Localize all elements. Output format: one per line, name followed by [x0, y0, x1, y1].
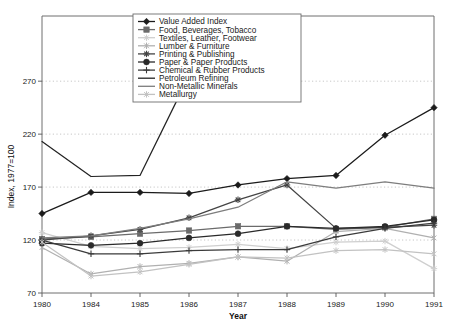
- data-point-marker: [431, 104, 437, 110]
- data-point-marker: [284, 175, 290, 181]
- x-tick-label: 1986: [180, 300, 198, 309]
- data-point-marker: [88, 189, 94, 195]
- x-tick-label: 1980: [33, 300, 51, 309]
- x-tick-label: 1990: [376, 300, 394, 309]
- x-tick-label: 1985: [131, 300, 149, 309]
- data-point-marker: [235, 231, 241, 237]
- data-point-marker: [186, 235, 192, 241]
- x-tick-label: 1988: [278, 300, 296, 309]
- y-tick-label: 170: [23, 183, 37, 192]
- axis-ticks: [38, 81, 434, 297]
- chart-legend[interactable]: Value Added IndexFood, Beverages, Tobacc…: [133, 14, 301, 102]
- x-axis-title: Year: [229, 311, 248, 321]
- data-point-marker: [186, 228, 191, 233]
- x-tick-label: 1987: [229, 300, 247, 309]
- data-point-marker: [144, 27, 149, 32]
- chart-page: 7012017022027019801984198519861987198819…: [0, 0, 449, 326]
- x-tick-label: 1991: [425, 300, 443, 309]
- data-point-marker: [235, 224, 240, 229]
- data-point-marker: [137, 189, 143, 195]
- axis-labels: 7012017022027019801984198519861987198819…: [6, 77, 443, 321]
- x-tick-label: 1984: [82, 300, 100, 309]
- y-tick-label: 270: [23, 77, 37, 86]
- x-tick-label: 1989: [327, 300, 345, 309]
- y-tick-label: 220: [23, 130, 37, 139]
- data-point-marker: [39, 210, 45, 216]
- data-series-layer: [39, 76, 437, 279]
- y-tick-label: 70: [27, 289, 36, 298]
- line-chart: 7012017022027019801984198519861987198819…: [0, 0, 449, 326]
- data-point-marker: [144, 59, 150, 65]
- data-point-marker: [284, 223, 290, 229]
- gridlines: [42, 81, 434, 240]
- data-point-marker: [333, 225, 339, 231]
- legend-item-label: Metallurgy: [159, 90, 198, 99]
- y-axis-title: Index, 1977=100: [6, 144, 16, 208]
- data-point-marker: [137, 240, 143, 246]
- data-point-marker: [88, 242, 94, 248]
- data-point-marker: [186, 190, 192, 196]
- y-tick-label: 120: [23, 236, 37, 245]
